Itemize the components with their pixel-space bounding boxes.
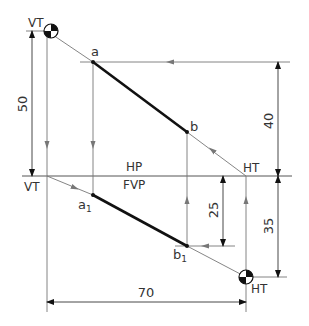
trace-line-top-right bbox=[187, 246, 246, 277]
point-a1-label: a1 bbox=[78, 197, 92, 214]
dimension-70-label: 70 bbox=[138, 285, 155, 300]
point-a-label: a bbox=[91, 44, 99, 59]
point-b1-label: b1 bbox=[173, 247, 187, 264]
vt-xy-label: VT bbox=[24, 180, 40, 194]
dimension-50-label: 50 bbox=[15, 96, 30, 113]
vt-top-label: VT bbox=[28, 16, 44, 30]
vt-trace-marker-icon bbox=[44, 24, 58, 38]
point-b-label: b bbox=[190, 119, 198, 134]
dimension-40-label: 40 bbox=[261, 113, 276, 130]
ht-bottom-label: HT bbox=[251, 282, 268, 296]
dimension-25-label: 25 bbox=[206, 202, 221, 219]
ht-xy-label: HT bbox=[243, 161, 260, 175]
arrow-diagonal-icon bbox=[212, 150, 220, 156]
hp-label: HP bbox=[126, 160, 142, 174]
front-view-ab bbox=[93, 62, 187, 132]
fvp-label: FVP bbox=[123, 178, 145, 192]
trace-line-top-left bbox=[47, 176, 93, 195]
projection-diagram: 50 40 35 25 70 VT VT HT HT HP FVP a b a1… bbox=[0, 0, 309, 326]
trace-line-front-bottom bbox=[187, 132, 246, 176]
dimension-35-label: 35 bbox=[261, 218, 276, 235]
top-view-a1b1 bbox=[93, 195, 187, 246]
